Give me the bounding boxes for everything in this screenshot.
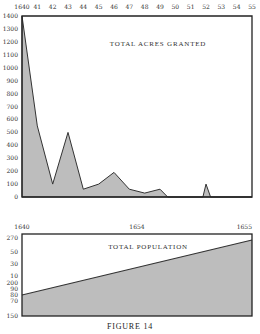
population-area [22,240,252,316]
acres-x-tick: 50 [172,3,180,10]
acres-x-tick: 51 [187,3,195,10]
population-y-tick: 70 [10,297,18,304]
acres-title: TOTAL ACRES GRANTED [110,40,206,48]
acres-y-tick: 0 [14,193,18,200]
population-y-tick: 270 [7,234,19,241]
acres-y-tick: 600 [7,115,19,122]
acres-y-tick: 300 [7,154,19,161]
acres-x-tick: 45 [95,3,103,10]
acres-x-tick: 54 [233,3,241,10]
population-y-tick: 10 [10,272,18,279]
population-title: TOTAL POPULATION [108,243,188,251]
population-x-axis-labels: 164016541655 [14,223,252,230]
acres-chart: 1640414243444546474849505152535455 14001… [3,3,256,200]
population-x-tick: 1654 [129,223,144,230]
acres-x-tick: 55 [248,3,256,10]
acres-x-tick: 49 [156,3,164,10]
acres-y-tick: 800 [7,90,19,97]
population-x-tick: 1640 [14,223,29,230]
acres-x-tick: 41 [34,3,42,10]
acres-y-axis-labels: 1400130012001100100090080070060050040030… [3,12,18,200]
acres-x-tick: 43 [64,3,72,10]
acres-y-tick: 100 [7,180,19,187]
population-x-tick: 1655 [237,223,252,230]
acres-x-tick: 46 [110,3,118,10]
acres-y-tick: 1000 [3,64,18,71]
acres-x-tick: 44 [80,3,88,10]
acres-y-tick: 1400 [3,12,18,19]
population-y-axis-labels: 270503010200908070150 [7,234,19,319]
acres-x-tick: 52 [202,3,210,10]
acres-y-tick: 500 [7,128,19,135]
acres-y-tick: 1300 [3,25,18,32]
population-chart: 164016541655 270503010200908070150 TOTAL… [7,223,253,319]
acres-y-tick: 200 [7,167,19,174]
acres-y-tick: 900 [7,77,19,84]
figure-canvas: 1640414243444546474849505152535455 14001… [0,0,260,334]
acres-x-tick: 53 [218,3,226,10]
acres-x-axis-labels: 1640414243444546474849505152535455 [14,3,256,10]
acres-x-tick: 47 [126,3,134,10]
acres-y-tick: 400 [7,141,19,148]
acres-x-tick: 42 [49,3,57,10]
acres-y-tick: 700 [7,103,19,110]
population-y-tick: 30 [10,260,18,267]
acres-x-tick: 48 [141,3,149,10]
figure-caption: FIGURE 14 [107,322,153,331]
population-y-tick: 50 [10,248,18,255]
acres-y-tick: 1200 [3,38,18,45]
acres-y-tick: 1100 [3,51,18,58]
acres-x-tick: 1640 [14,3,29,10]
population-y-tick: 150 [7,312,19,319]
